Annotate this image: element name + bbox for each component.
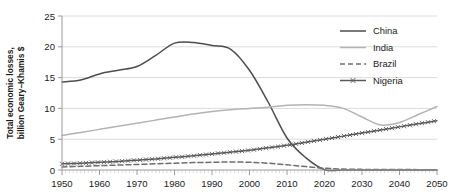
y-tick-label: 0 bbox=[50, 165, 55, 176]
y-tick-label: 15 bbox=[44, 72, 55, 83]
y-tick-label: 20 bbox=[44, 41, 55, 52]
y-axis-label-line2: billion Geary–Khamis $ bbox=[16, 46, 26, 139]
x-tick-label: 2040 bbox=[389, 178, 410, 189]
legend-label-nigeria: Nigeria bbox=[373, 75, 403, 86]
x-tick-label: 1990 bbox=[201, 178, 222, 189]
legend: ChinaIndiaBrazilNigeria bbox=[340, 25, 403, 86]
x-tick-label: 2000 bbox=[239, 178, 260, 189]
y-tick-label: 25 bbox=[44, 11, 55, 22]
legend-label-brazil: Brazil bbox=[373, 58, 396, 69]
x-tick-label: 2010 bbox=[276, 178, 297, 189]
legend-label-china: China bbox=[373, 25, 398, 36]
x-tick-label: 1960 bbox=[89, 178, 110, 189]
chart-canvas: Total economic losses, billion Geary–Kha… bbox=[0, 0, 451, 194]
x-tick-label: 2020 bbox=[314, 178, 335, 189]
x-tick-label: 2050 bbox=[426, 178, 447, 189]
x-tick-label: 1980 bbox=[164, 178, 185, 189]
series-line bbox=[62, 121, 437, 164]
x-tick-label: 1950 bbox=[51, 178, 72, 189]
x-axis-ticks: 1950196019701980199020002010202020302040… bbox=[51, 170, 447, 189]
y-axis-label: Total economic losses, billion Geary–Kha… bbox=[5, 46, 26, 139]
y-axis-label-line1: Total economic losses, bbox=[5, 47, 15, 139]
legend-label-india: India bbox=[373, 42, 394, 53]
x-tick-label: 2030 bbox=[351, 178, 372, 189]
x-tick-label: 1970 bbox=[126, 178, 147, 189]
y-tick-label: 10 bbox=[44, 103, 55, 114]
y-axis-ticks: 2520151050 bbox=[44, 11, 62, 176]
economic-losses-line-chart: Total economic losses, billion Geary–Kha… bbox=[0, 0, 451, 194]
y-tick-label: 5 bbox=[50, 134, 55, 145]
